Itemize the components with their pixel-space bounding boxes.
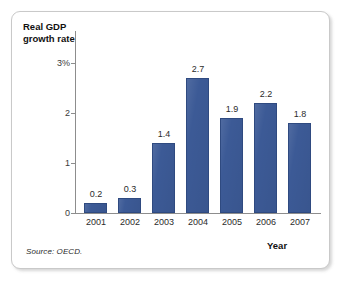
y-axis-title: Real GDP growth rate — [23, 21, 95, 45]
y-tick-label-1: 1 — [30, 159, 70, 168]
y-axis-title-line-1: Real GDP — [23, 21, 95, 33]
bar-value-2002: 0.3 — [110, 185, 150, 194]
bar-2005[interactable] — [220, 118, 243, 213]
y-tick-label-2: 2 — [30, 109, 70, 118]
bar-2006[interactable] — [254, 103, 277, 213]
bar-2002[interactable] — [118, 198, 141, 213]
y-tick-label-3: 3% — [30, 59, 70, 68]
bar-2004[interactable] — [186, 78, 209, 213]
x-axis-title: Year — [267, 240, 287, 251]
y-axis-title-line-2: growth rate — [23, 33, 95, 45]
x-axis-line — [75, 213, 321, 214]
y-tick-mark-3 — [71, 63, 76, 64]
x-tick-label-2007: 2007 — [280, 218, 320, 227]
source-note: Source: OECD. — [26, 247, 82, 256]
y-axis-line — [75, 31, 76, 214]
plot-area: Real GDP growth rate 3% 2 1 0 0.2 0.3 1.… — [12, 12, 331, 270]
y-tick-mark-0 — [71, 213, 76, 214]
bar-value-2007: 1.8 — [280, 110, 320, 119]
bar-value-2005: 1.9 — [212, 105, 252, 114]
bar-value-2004: 2.7 — [178, 65, 218, 74]
chart-figure-panel: Real GDP growth rate 3% 2 1 0 0.2 0.3 1.… — [11, 11, 330, 269]
bar-value-2006: 2.2 — [246, 90, 286, 99]
bar-value-2003: 1.4 — [144, 130, 184, 139]
bar-2003[interactable] — [152, 143, 175, 213]
y-tick-mark-2 — [71, 113, 76, 114]
bar-2001[interactable] — [84, 203, 107, 213]
y-tick-label-0: 0 — [30, 209, 70, 218]
bar-2007[interactable] — [288, 123, 311, 213]
y-tick-mark-1 — [71, 163, 76, 164]
